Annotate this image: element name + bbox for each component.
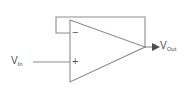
output-arrowhead-icon — [152, 43, 160, 51]
schematic-canvas: VIn VOut − + — [0, 0, 192, 90]
output-label-base: V — [160, 40, 167, 51]
output-label-subscript: Out — [167, 46, 177, 52]
inverting-input-sign: − — [72, 27, 78, 38]
non-inverting-input-sign: + — [72, 56, 78, 67]
op-amp-triangle — [70, 20, 145, 82]
input-label-subscript: In — [18, 61, 23, 67]
output-node-junction — [144, 46, 146, 48]
input-label-base: V — [11, 55, 18, 66]
input-label: VIn — [11, 56, 23, 66]
output-label: VOut — [160, 41, 176, 51]
